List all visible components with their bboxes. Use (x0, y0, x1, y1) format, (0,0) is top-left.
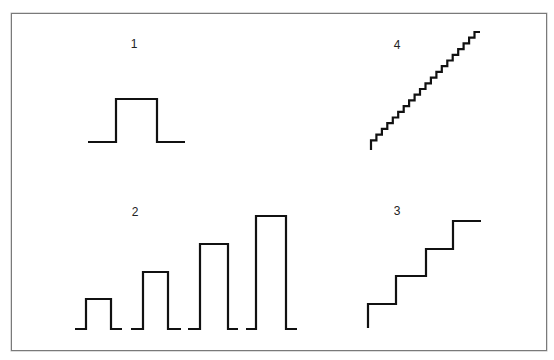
waveform-canvas (0, 0, 554, 360)
pulse-waveform-2 (131, 272, 181, 329)
pulse-waveform-3 (188, 244, 238, 329)
panel-label-4: 4 (394, 38, 401, 52)
pulse-waveform-4 (246, 216, 297, 329)
panel-label-2: 2 (132, 205, 139, 219)
panel-3-coarse-staircase (368, 221, 481, 328)
fine-staircase-waveform (371, 32, 480, 150)
panel-2-increasing-pulses (75, 216, 297, 329)
staircase-waveform (368, 221, 481, 328)
panel-label-1: 1 (131, 37, 138, 51)
panel-label-3: 3 (394, 204, 401, 218)
panel-4-fine-staircase (371, 32, 480, 150)
panel-1-single-pulse (88, 99, 185, 142)
pulse-waveform (88, 99, 185, 142)
pulse-waveform-1 (75, 299, 122, 329)
